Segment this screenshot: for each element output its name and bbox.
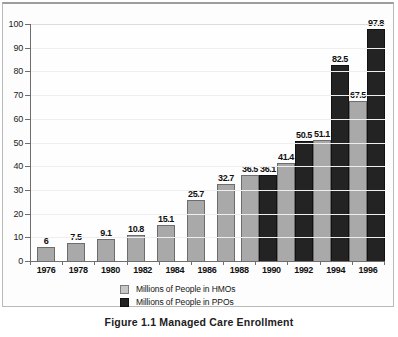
x-axis-label: 1996 <box>352 265 384 275</box>
gridline <box>31 190 385 191</box>
bar-hmo[interactable]: 7.5 <box>67 243 85 261</box>
gridline <box>31 48 385 49</box>
bar-hmo[interactable]: 51.1 <box>313 140 331 261</box>
gridline <box>31 119 385 120</box>
figure-container: 67.59.110.815.125.732.736.536.141.450.55… <box>0 0 398 337</box>
x-axis-tick <box>159 261 160 265</box>
gridline <box>31 143 385 144</box>
y-axis-tick <box>25 71 31 72</box>
x-axis-tick <box>255 261 256 265</box>
x-axis-label: 1986 <box>191 265 223 275</box>
legend-label-hmo: Millions of People in HMOs <box>136 284 235 294</box>
y-axis-label: 80 <box>13 66 23 76</box>
y-axis-tick <box>25 24 31 25</box>
bar-hmo[interactable]: 15.1 <box>157 225 175 261</box>
bar-hmo[interactable]: 41.4 <box>277 163 295 261</box>
gridline <box>31 71 385 72</box>
bar-hmo[interactable]: 25.7 <box>187 200 205 261</box>
bar-value-label: 36.5 <box>242 164 258 174</box>
x-axis-tick <box>127 261 128 265</box>
plot-area: 67.59.110.815.125.732.736.536.141.450.55… <box>30 24 385 262</box>
y-axis-label: 10 <box>13 232 23 242</box>
x-axis-tick <box>62 261 63 265</box>
y-axis-tick <box>25 166 31 167</box>
x-axis-tick <box>287 261 288 265</box>
x-axis-label: 1978 <box>62 265 94 275</box>
legend-item-hmo: Millions of People in HMOs <box>120 284 235 294</box>
x-axis-tick <box>30 261 31 265</box>
bar-ppo[interactable]: 97.8 <box>367 29 385 261</box>
legend-swatch-hmo-icon <box>120 285 129 294</box>
y-axis-tick <box>25 95 31 96</box>
bar-value-label: 41.4 <box>278 152 294 162</box>
bar-value-label: 50.5 <box>296 130 312 140</box>
y-axis-label: 30 <box>13 185 23 195</box>
x-axis-tick <box>320 261 321 265</box>
gridline <box>31 95 385 96</box>
x-axis-tick <box>223 261 224 265</box>
gridline <box>31 214 385 215</box>
x-axis-label: 1982 <box>127 265 159 275</box>
x-axis-label: 1980 <box>94 265 126 275</box>
y-axis-tick <box>25 48 31 49</box>
bar-value-label: 15.1 <box>158 214 174 224</box>
gridline <box>31 237 385 238</box>
x-axis-tick <box>352 261 353 265</box>
y-axis-tick <box>25 237 31 238</box>
x-axis-label: 1988 <box>223 265 255 275</box>
bar-chart: 67.59.110.815.125.732.736.536.141.450.55… <box>30 20 384 268</box>
y-axis-tick <box>25 214 31 215</box>
y-axis-label: 60 <box>13 114 23 124</box>
x-axis-label: 1984 <box>159 265 191 275</box>
x-axis-label: 1990 <box>255 265 287 275</box>
y-axis-label: 0 <box>18 256 23 266</box>
y-axis-tick <box>25 190 31 191</box>
x-axis-label: 1976 <box>30 265 62 275</box>
y-axis-tick <box>25 119 31 120</box>
x-axis-tick <box>191 261 192 265</box>
x-axis: 1976197819801982198419861988199019921994… <box>30 265 384 275</box>
bar-hmo[interactable]: 36.5 <box>241 175 259 262</box>
chart-legend: Millions of People in HMOs Millions of P… <box>120 284 235 307</box>
y-axis-label: 70 <box>13 90 23 100</box>
y-axis-label: 20 <box>13 209 23 219</box>
bar-value-label: 10.8 <box>128 224 144 234</box>
x-axis-label: 1994 <box>320 265 352 275</box>
gridline <box>31 24 385 25</box>
gridline <box>31 166 385 167</box>
x-axis-tick <box>384 261 385 265</box>
bar-ppo[interactable]: 50.5 <box>295 141 313 261</box>
y-axis-tick <box>25 143 31 144</box>
figure-caption: Figure 1.1 Managed Care Enrollment <box>0 316 398 328</box>
bar-hmo[interactable]: 9.1 <box>97 239 115 261</box>
bar-hmo[interactable]: 10.8 <box>127 235 145 261</box>
y-axis-label: 50 <box>13 138 23 148</box>
legend-label-ppo: Millions of People in PPOs <box>136 297 234 307</box>
y-axis-label: 90 <box>13 43 23 53</box>
y-axis-label: 40 <box>13 161 23 171</box>
bar-value-label: 51.1 <box>314 129 330 139</box>
bar-ppo[interactable]: 36.1 <box>259 175 277 261</box>
x-axis-tick <box>94 261 95 265</box>
bar-hmo[interactable]: 6 <box>37 247 55 261</box>
legend-swatch-ppo-icon <box>120 298 129 307</box>
bar-value-label: 32.7 <box>218 173 234 183</box>
bar-hmo[interactable]: 32.7 <box>217 184 235 261</box>
bar-value-label: 82.5 <box>332 54 348 64</box>
y-axis-label: 100 <box>9 19 23 29</box>
legend-item-ppo: Millions of People in PPOs <box>120 297 235 307</box>
x-axis-label: 1992 <box>288 265 320 275</box>
